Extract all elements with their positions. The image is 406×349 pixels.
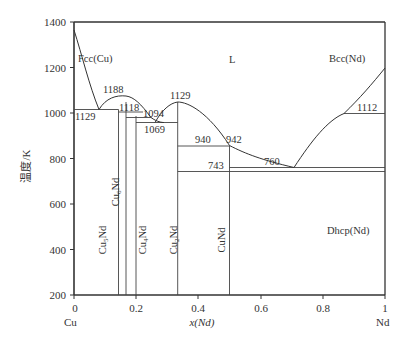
- nd-liquidus-right: [294, 68, 385, 168]
- compound-label-cu5nd: Cu5Nd: [97, 225, 110, 254]
- phase-label-liquid: L: [229, 54, 235, 65]
- y-tick-label: 200: [50, 289, 67, 301]
- phase-label-bcc-nd: Bcc(Nd): [329, 53, 366, 65]
- label-1112: 1112: [357, 102, 377, 113]
- y-axis-tick-labels: 200 400 600 800 1000 1200 1400: [44, 16, 67, 301]
- label-1094: 1094: [143, 108, 165, 119]
- cund-nd-liquidus-left: [230, 146, 295, 168]
- x-tick-label: 0.2: [129, 302, 143, 314]
- phase-region-labels: Fcc(Cu) L Bcc(Nd) Dhcp(Nd): [78, 53, 370, 237]
- y-tick-label: 400: [50, 244, 67, 256]
- compound-label-cu2nd: Cu2Nd: [168, 225, 181, 254]
- compound-label-cund: CuNd: [216, 227, 227, 253]
- compound-label-cu6nd: Cu6Nd: [110, 177, 123, 206]
- x-tick-label: 1: [382, 302, 388, 314]
- x-tick-label: 0.4: [191, 302, 205, 314]
- y-tick-label: 1000: [44, 107, 67, 119]
- cu2nd-dome: [155, 102, 230, 146]
- x-tick-label: 0.6: [254, 302, 268, 314]
- label-942: 942: [226, 134, 242, 145]
- x-axis-tick-labels: 0 0.2 0.4 0.6 0.8 1: [72, 302, 388, 314]
- phase-label-dhcp-nd: Dhcp(Nd): [327, 225, 370, 237]
- x-tick-label: 0: [72, 302, 78, 314]
- compound-lines: [119, 102, 230, 295]
- y-tick-label: 800: [50, 153, 67, 165]
- invariant-labels: 1129 1188 1118 1094 1069 1129 940 942 74…: [75, 84, 377, 171]
- compound-labels: Cu6Nd Cu5Nd Cu4Nd Cu2Nd CuNd: [97, 177, 227, 254]
- x-axis-title: x(Nd): [188, 316, 214, 329]
- fcc-cu-liquidus: [74, 30, 99, 110]
- label-1188: 1188: [103, 84, 124, 95]
- label-940: 940: [195, 134, 211, 145]
- label-1129-cu2nd: 1129: [170, 90, 191, 101]
- y-tick-label: 600: [50, 198, 67, 210]
- label-1069: 1069: [144, 124, 165, 135]
- y-tick-label: 1400: [44, 16, 67, 28]
- y-axis-title: 温度/K: [19, 149, 32, 182]
- label-1129-left: 1129: [75, 111, 96, 122]
- phase-diagram-chart: 200 400 600 800 1000 1200 1400 0 0.2 0.4…: [0, 0, 406, 349]
- label-760: 760: [264, 156, 280, 167]
- label-743: 743: [208, 160, 224, 171]
- label-1118: 1118: [119, 102, 139, 113]
- compound-label-cu4nd: Cu4Nd: [137, 225, 150, 254]
- x-tick-label: 0.8: [316, 302, 330, 314]
- y-tick-label: 1200: [44, 62, 67, 74]
- x-end-label-cu: Cu: [64, 316, 77, 328]
- x-end-label-nd: Nd: [376, 316, 390, 328]
- phase-label-fcc-cu: Fcc(Cu): [78, 53, 113, 65]
